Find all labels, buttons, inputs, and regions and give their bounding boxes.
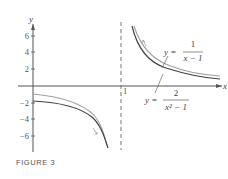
x-axis-arrow-icon <box>216 84 222 88</box>
direction-arrow-icon <box>93 128 97 134</box>
eq1-numerator: 1 <box>191 39 196 49</box>
eq1-lhs: y = <box>163 47 176 57</box>
y-tick-label: 6 <box>25 31 29 41</box>
y-tick-label: 4 <box>25 47 30 57</box>
y-tick-label: −4 <box>20 114 30 124</box>
y-tick-label: 2 <box>25 64 29 74</box>
equation-label-2: y = 2 x² − 1 <box>144 88 189 112</box>
equation-label-1: y = 1 x − 1 <box>163 39 203 63</box>
curve-1-over-x-minus-1-right <box>134 26 220 76</box>
leader-line-eq2 <box>155 74 163 93</box>
leader-line-eq1 <box>162 56 168 68</box>
figure-caption: FIGURE 3 <box>16 158 55 167</box>
y-tick-label: −2 <box>20 98 29 108</box>
figure: x y 6 4 2 −2 −4 −6 1 y = 1 x <box>0 0 228 179</box>
y-axis-label: y <box>28 14 33 24</box>
eq2-denominator: x² − 1 <box>164 102 187 112</box>
x-tick-label: 1 <box>123 86 127 96</box>
curve-2-over-x2-minus-1-left <box>33 101 108 148</box>
eq2-numerator: 2 <box>174 88 179 98</box>
eq2-lhs: y = <box>144 95 157 105</box>
eq1-denominator: x − 1 <box>182 53 202 63</box>
y-axis-arrow-icon <box>31 24 35 30</box>
x-axis-label: x <box>222 81 227 91</box>
y-tick-label: −6 <box>20 131 29 141</box>
